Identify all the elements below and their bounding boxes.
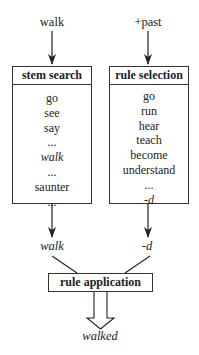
stem-item: see <box>13 106 91 121</box>
rule-selection-title: rule selection <box>110 67 188 85</box>
stem-item: ... <box>13 195 91 210</box>
hollow-arrow-icon <box>87 291 114 329</box>
rule-output-label: -d <box>142 239 152 254</box>
rule-item: run <box>110 104 188 119</box>
stem-output-label: walk <box>40 239 64 254</box>
stem-item: say <box>13 121 91 136</box>
rule-item: understand <box>110 163 188 178</box>
stem-item: ... <box>13 135 91 150</box>
stem-item: ... <box>13 165 91 180</box>
result-label: walked <box>82 329 117 344</box>
rule-item: teach <box>110 133 188 148</box>
rule-item: go <box>110 89 188 104</box>
rule-item: become <box>110 148 188 163</box>
feature-input-label: +past <box>134 15 161 30</box>
stem-input-label: walk <box>40 15 64 30</box>
rule-application-box: rule application <box>48 273 153 292</box>
rule-item-selected: -d <box>110 193 188 208</box>
stem-item: go <box>13 91 91 106</box>
stem-search-list: go see say ... walk ... saunter ... <box>13 85 91 209</box>
rule-item: hear <box>110 119 188 134</box>
line-walk-to-rule-application <box>52 256 77 273</box>
rule-selection-list: go run hear teach become understand ... … <box>110 85 188 207</box>
line-d-to-rule-application <box>125 256 150 273</box>
stem-item-selected: walk <box>13 150 91 165</box>
stem-item: saunter <box>13 180 91 195</box>
stem-search-box: stem search go see say ... walk ... saun… <box>12 66 92 204</box>
stem-search-title: stem search <box>13 67 91 85</box>
rule-item: ... <box>110 178 188 193</box>
rule-selection-box: rule selection go run hear teach become … <box>109 66 189 204</box>
